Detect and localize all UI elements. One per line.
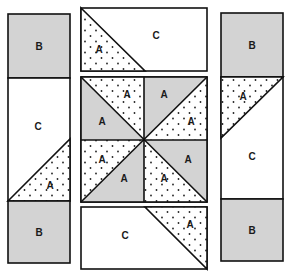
label-a: A <box>123 89 130 100</box>
label-b: B <box>35 41 42 52</box>
label-c: C <box>248 151 255 162</box>
label-a: A <box>95 44 102 55</box>
bottom-strip: C A <box>81 207 207 269</box>
label-a: A <box>46 180 53 191</box>
label-a: A <box>184 154 191 165</box>
label-b: B <box>248 225 255 236</box>
label-c: C <box>121 230 128 241</box>
label-a: A <box>186 219 193 230</box>
top-strip: C A <box>81 8 207 71</box>
label-a: A <box>239 91 246 102</box>
label-a: A <box>98 116 105 127</box>
quilt-diagram: B C A B C A A A A A <box>0 0 289 275</box>
right-column: B A C B <box>221 13 283 261</box>
label-a: A <box>98 154 105 165</box>
label-c: C <box>34 121 41 132</box>
label-c: C <box>152 30 159 41</box>
label-a: A <box>160 89 167 100</box>
label-a: A <box>160 173 167 184</box>
label-a: A <box>187 116 194 127</box>
label-b: B <box>35 227 42 238</box>
label-b: B <box>248 40 255 51</box>
label-a: A <box>120 173 127 184</box>
left-column: B C A B <box>8 14 70 263</box>
center-block: A A A A A A A A <box>81 77 207 202</box>
